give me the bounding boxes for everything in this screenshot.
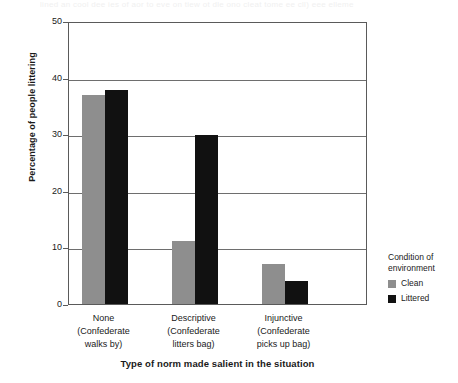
legend-title-line-1: Condition of: [388, 252, 458, 263]
bar-clean-3: [262, 264, 285, 304]
bar-littered-1: [105, 90, 128, 304]
legend-swatch-clean-icon: [388, 280, 396, 288]
bar-littered-2: [195, 135, 218, 304]
legend-label-littered: Littered: [401, 293, 429, 304]
x-axis-category-label-line-2: (Confederate: [224, 325, 344, 338]
legend-title-line-2: environment: [388, 263, 458, 274]
legend-label-clean: Clean: [401, 278, 423, 289]
scan-bleed-through-artifact: lined an cool dee ies of aor to eve on t…: [40, 1, 440, 15]
x-axis-category-label: Injunctive(Confederatepicks up bag): [224, 312, 344, 351]
x-axis-category-label-line-3: picks up bag): [224, 338, 344, 351]
plot-area: [68, 22, 367, 305]
x-axis-category-label-line-1: Injunctive: [224, 312, 344, 325]
legend-item-clean: Clean: [388, 278, 458, 289]
y-axis-tick-label: 40: [10, 74, 62, 83]
legend-swatch-littered-icon: [388, 295, 396, 303]
x-axis-title: Type of norm made salient in the situati…: [68, 358, 367, 369]
legend: Condition of environment Clean Littered: [388, 252, 458, 304]
y-axis-tick-label: 30: [10, 130, 62, 139]
bar-chart-figure: lined an cool dee ies of aor to eve on t…: [0, 0, 458, 383]
legend-item-littered: Littered: [388, 293, 458, 304]
y-axis-tick-label: 50: [10, 17, 62, 26]
bar-clean-2: [172, 241, 195, 304]
y-axis-tick-mark: [63, 305, 68, 306]
gridline: [69, 80, 366, 81]
bar-littered-3: [285, 281, 308, 304]
bar-clean-1: [82, 95, 105, 304]
y-axis-tick-label: 0: [10, 300, 62, 309]
y-axis-tick-label: 20: [10, 187, 62, 196]
y-axis-tick-label: 10: [10, 243, 62, 252]
y-axis-title: Percentage of people littering: [27, 22, 37, 212]
